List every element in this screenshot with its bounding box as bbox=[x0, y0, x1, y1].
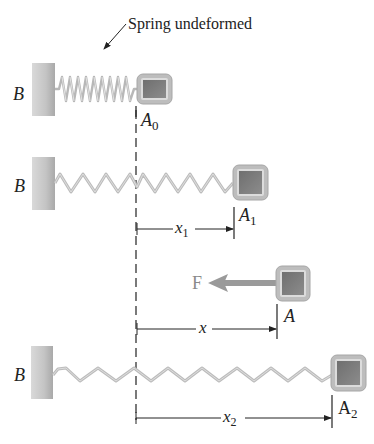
block-a1 bbox=[233, 165, 268, 200]
annotation-text: Spring undeformed bbox=[128, 15, 252, 33]
spring-zigzag-1 bbox=[55, 174, 233, 192]
wall-1 bbox=[32, 157, 55, 210]
force-label: F bbox=[192, 273, 202, 293]
dim-x2-label: x2 bbox=[222, 407, 237, 429]
annotation-arrow bbox=[104, 24, 126, 49]
label-a2-main: A bbox=[338, 398, 351, 418]
state-2-group: B A2 x2 bbox=[14, 346, 366, 429]
label-a0: A0 bbox=[140, 110, 159, 133]
wall-0 bbox=[32, 63, 55, 116]
state-force-group: F A x bbox=[137, 266, 310, 339]
force-arrow bbox=[208, 274, 277, 292]
label-a2-sub: 2 bbox=[351, 406, 358, 421]
label-a1-sub: 1 bbox=[250, 213, 257, 228]
wall-label-0: B bbox=[13, 84, 24, 104]
dim-x2-sub: 2 bbox=[231, 415, 237, 429]
label-a: A bbox=[283, 306, 296, 326]
spring-diagram: Spring undeformed B A0 B A1 bbox=[0, 0, 374, 444]
label-a1: A1 bbox=[238, 205, 257, 228]
label-a0-sub: 0 bbox=[152, 118, 159, 133]
block-a bbox=[276, 266, 310, 301]
dim-x1-sub: 1 bbox=[183, 226, 189, 240]
label-a2: A2 bbox=[338, 398, 358, 421]
dim-x1-label: x1 bbox=[174, 218, 189, 240]
block-a0 bbox=[137, 74, 172, 104]
wall-label-2: B bbox=[14, 365, 25, 385]
wall-2 bbox=[31, 346, 53, 399]
block-a2 bbox=[331, 355, 366, 391]
state-0-group: Spring undeformed B A0 bbox=[13, 15, 252, 133]
wall-label-1: B bbox=[14, 176, 25, 196]
state-1-group: B A1 x1 bbox=[14, 157, 268, 240]
dim-x-label: x bbox=[198, 318, 207, 337]
